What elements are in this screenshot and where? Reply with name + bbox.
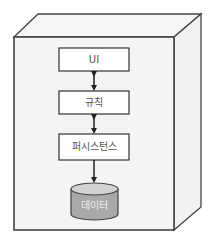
layer-label-persistence: 퍼시스턴스 [59, 142, 129, 152]
storage-label: 데이터 [71, 201, 118, 211]
layer-label-rules: 규칙 [59, 98, 129, 108]
container-side-face [174, 14, 201, 230]
layer-label-ui: UI [59, 55, 129, 65]
container-top-face [14, 14, 201, 37]
